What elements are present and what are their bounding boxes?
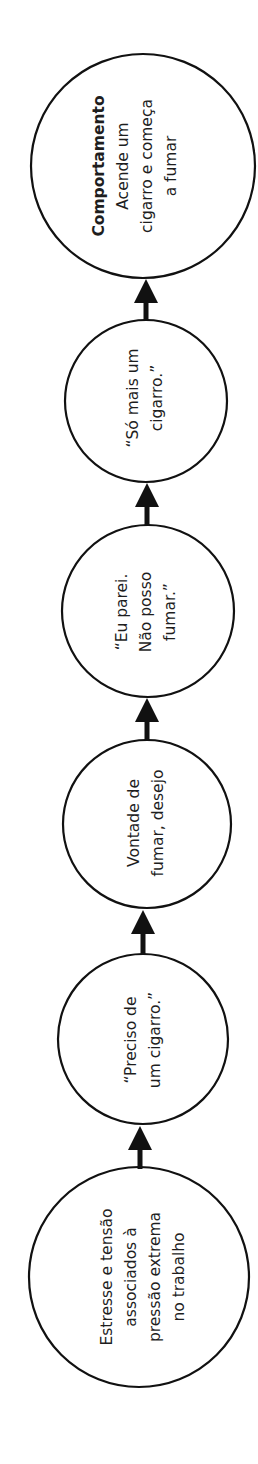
- node-thought-need: “Preciso de um cigarro.”: [119, 992, 167, 1088]
- node-line: cigarro e começa: [135, 95, 159, 236]
- node-thought-one-more: “Só mais um cigarro.”: [121, 348, 169, 447]
- node-line: a fumar: [159, 95, 183, 236]
- node-line: cigarro.”: [145, 348, 169, 447]
- arrow-icon: [135, 698, 159, 741]
- arrow-icon: [135, 483, 159, 526]
- node-line: no trabalho: [167, 1208, 191, 1345]
- node-trigger: Estresse e tensão associados à pressão e…: [95, 1208, 191, 1345]
- node-line: “Preciso de: [119, 992, 143, 1088]
- node-line: fumar.”: [158, 572, 182, 652]
- node-line: fumar, desejo: [146, 770, 170, 877]
- arrow-icon: [128, 1126, 152, 1169]
- node-thought-quit: “Eu parei. Não posso fumar.”: [110, 572, 182, 652]
- node-craving: Vontade de fumar, desejo: [122, 770, 170, 877]
- node-behavior: Comportamento Acende um cigarro e começa…: [87, 95, 183, 236]
- node-line: um cigarro.”: [143, 992, 167, 1088]
- node-line: pressão extrema: [143, 1208, 167, 1345]
- arrow-icon: [134, 279, 158, 320]
- node-title: Comportamento: [87, 95, 111, 236]
- arrow-icon: [131, 910, 155, 954]
- node-line: Vontade de: [122, 770, 146, 877]
- node-line: Não posso: [134, 572, 158, 652]
- node-line: “Só mais um: [121, 348, 145, 447]
- node-line: associados à: [119, 1208, 143, 1345]
- node-line: Acende um: [111, 95, 135, 236]
- node-line: “Eu parei.: [110, 572, 134, 652]
- node-line: Estresse e tensão: [95, 1208, 119, 1345]
